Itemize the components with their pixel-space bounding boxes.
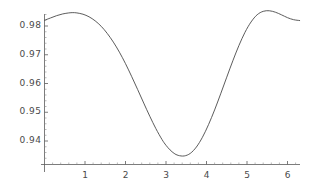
x-axis-tick-label: 1 (75, 170, 95, 180)
x-axis-tick-label: 5 (237, 170, 257, 180)
x-axis-tick-label: 6 (278, 170, 298, 180)
x-axis-tick-label: 3 (156, 170, 176, 180)
y-axis-tick-label: 0.96 (19, 78, 41, 88)
y-axis-tick-label: 0.95 (19, 106, 41, 116)
x-axis-tick-label: 2 (116, 170, 136, 180)
y-axis-tick-label: 0.94 (19, 135, 41, 145)
chart-svg (0, 0, 311, 192)
plot-canvas: 0.940.950.960.970.98 123456 (0, 0, 311, 192)
data-series-line (45, 11, 300, 156)
x-axis-tick-label: 4 (197, 170, 217, 180)
y-axis-tick-label: 0.97 (19, 49, 41, 59)
y-axis-tick-label: 0.98 (19, 20, 41, 30)
x-axis-major-ticks (85, 161, 288, 165)
